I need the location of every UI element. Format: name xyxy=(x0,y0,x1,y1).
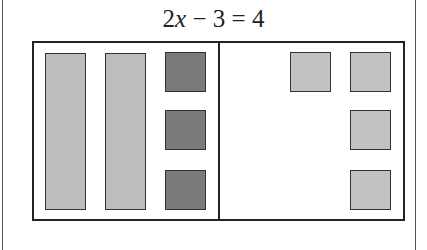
mat-divider xyxy=(218,41,220,221)
positive-unit-tile xyxy=(350,110,391,150)
x-tile xyxy=(105,53,146,210)
equation-variable: x xyxy=(175,5,186,32)
x-tile xyxy=(45,53,86,210)
positive-unit-tile xyxy=(350,170,391,210)
equation-title: 2x − 3 = 4 xyxy=(0,5,427,33)
positive-unit-tile xyxy=(350,52,391,92)
negative-unit-tile xyxy=(165,110,206,150)
negative-unit-tile xyxy=(165,52,206,92)
positive-unit-tile xyxy=(290,52,331,92)
equation-rest: − 3 = 4 xyxy=(186,5,264,32)
negative-unit-tile xyxy=(165,170,206,210)
equation-coefficient: 2 xyxy=(163,5,176,32)
